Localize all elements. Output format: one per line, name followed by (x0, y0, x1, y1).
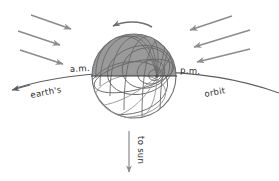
label-to-sun: to sun (136, 136, 146, 164)
ray-arrow-right-1 (190, 16, 232, 30)
rotation-arc-icon (113, 22, 152, 27)
sunlight-rays-right (190, 16, 250, 62)
north-pole-point (155, 74, 158, 77)
label-orbit: orbit (203, 85, 226, 99)
ray-arrow-right-2 (194, 30, 250, 47)
sunlight-rays-left (18, 15, 71, 64)
ray-arrow-right-3 (197, 49, 250, 62)
orbit-direction-arrow (12, 85, 30, 90)
label-am: a.m. (70, 63, 91, 74)
ray-arrow-left-2 (18, 31, 60, 45)
ray-arrow-left-3 (20, 50, 63, 64)
ray-arrow-left-1 (31, 15, 71, 29)
rotation-arrow (113, 22, 152, 27)
to-sun-arrow-group: to sun (129, 131, 146, 172)
label-pm: p.m. (180, 65, 201, 76)
earth-orbit-diagram: a.m. p.m. earth's orbit to sun (0, 0, 279, 181)
earth-globe (84, 34, 178, 122)
label-earths: earth's (29, 84, 62, 100)
diagram-canvas: a.m. p.m. earth's orbit to sun (0, 0, 279, 181)
